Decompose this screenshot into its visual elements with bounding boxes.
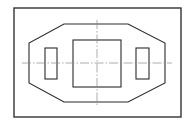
technical-drawing [0, 0, 191, 125]
